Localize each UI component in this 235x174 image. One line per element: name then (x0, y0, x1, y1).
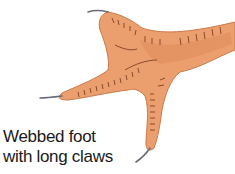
illustration-panel: Webbed foot with long claws (0, 0, 235, 174)
caption-line-2: with long claws (3, 147, 113, 167)
caption-line-1: Webbed foot (3, 127, 113, 147)
caption: Webbed foot with long claws (3, 127, 113, 167)
